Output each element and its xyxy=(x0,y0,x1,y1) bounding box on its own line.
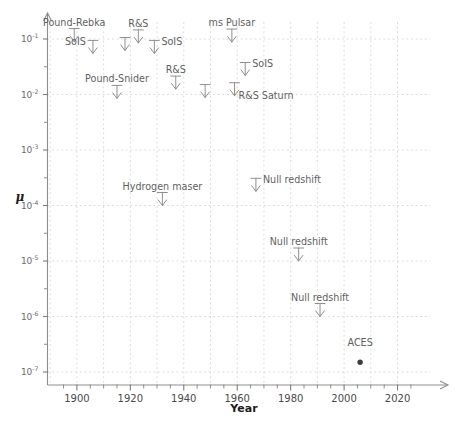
data-point-label: Null redshift xyxy=(270,236,328,247)
upper-limit-arrow xyxy=(251,178,261,191)
data-point-label: SoIS xyxy=(161,36,182,47)
data-point-label: Null redshift xyxy=(291,292,349,303)
data-point-label: R&S xyxy=(166,64,186,75)
y-tick-label-exponent: -5 xyxy=(32,254,38,261)
data-point-labels: Pound-RebkaSoISR&SSoISms PulsarSoISPound… xyxy=(43,17,373,349)
x-tick-label: 2020 xyxy=(385,393,410,404)
data-point-dot xyxy=(357,360,362,365)
data-point-label: ACES xyxy=(347,337,372,348)
upper-limit-arrow xyxy=(149,40,159,53)
scatter-plot: 10-110-210-310-410-510-610-7 19001920194… xyxy=(0,0,455,429)
data-point-label: Pound-Snider xyxy=(85,73,149,84)
upper-limit-arrow xyxy=(120,38,130,51)
x-tick-label: 2000 xyxy=(331,393,356,404)
y-axis-title: μ xyxy=(16,190,25,204)
data-point-label: Hydrogen maser xyxy=(123,181,203,192)
y-tick-label: 10-2 xyxy=(21,88,39,100)
y-tick-label-exponent: -3 xyxy=(32,143,38,150)
y-axis-tick-labels: 10-110-210-310-410-510-610-7 xyxy=(21,32,39,377)
y-tick-label-exponent: -1 xyxy=(32,32,38,39)
y-tick-label-exponent: -2 xyxy=(32,88,38,95)
data-point-label: Null redshift xyxy=(263,174,321,185)
data-point-label: R&S Saturn xyxy=(239,90,294,101)
y-tick-label: 10-3 xyxy=(21,143,39,155)
upper-limit-arrow xyxy=(315,304,325,317)
x-tick-label: 1900 xyxy=(64,393,89,404)
y-tick-label: 10-1 xyxy=(21,32,39,44)
y-tick-label-exponent: -6 xyxy=(32,310,38,317)
y-tick-label: 10-5 xyxy=(21,254,39,266)
y-tick-label: 10-6 xyxy=(21,310,39,322)
y-tick-label: 10-7 xyxy=(21,365,39,377)
x-axis-title: Year xyxy=(229,402,258,415)
y-tick-label-exponent: -4 xyxy=(32,199,38,206)
upper-limit-arrow xyxy=(133,30,143,43)
upper-limit-arrow xyxy=(88,40,98,53)
upper-limit-arrow xyxy=(227,29,237,42)
chart-container: 10-110-210-310-410-510-610-7 19001920194… xyxy=(0,0,455,429)
axes-layer xyxy=(44,13,449,389)
data-point-label: SoIS xyxy=(252,58,273,69)
x-tick-label: 1980 xyxy=(278,393,303,404)
y-tick-label-exponent: -7 xyxy=(32,365,38,372)
upper-limit-arrow xyxy=(112,85,122,98)
data-point-label: Pound-Rebka xyxy=(43,17,106,28)
upper-limit-arrow xyxy=(171,76,181,89)
data-point-label: R&S xyxy=(128,18,148,29)
upper-limit-arrow xyxy=(200,85,210,98)
x-tick-label: 1940 xyxy=(171,393,196,404)
data-point-label: ms Pulsar xyxy=(209,17,256,28)
upper-limit-arrow xyxy=(240,62,250,75)
data-point-label: SoIS xyxy=(65,36,86,47)
upper-limit-arrow xyxy=(294,248,304,261)
x-tick-label: 1920 xyxy=(118,393,143,404)
upper-limit-arrow xyxy=(157,193,167,206)
